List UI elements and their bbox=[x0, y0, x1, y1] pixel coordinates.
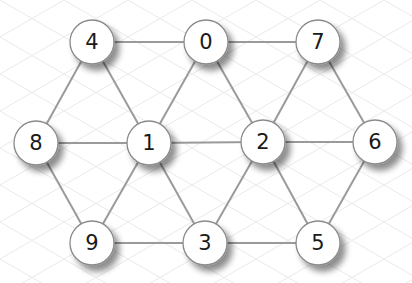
node-5: 5 bbox=[296, 221, 340, 265]
node-2: 2 bbox=[241, 120, 285, 164]
node-9: 9 bbox=[70, 221, 114, 265]
node-0: 0 bbox=[184, 20, 228, 64]
node-label: 2 bbox=[256, 130, 269, 154]
node-6: 6 bbox=[353, 120, 397, 164]
node-7: 7 bbox=[296, 20, 340, 64]
node-8: 8 bbox=[14, 121, 58, 165]
graph-diagram: 0123456789 bbox=[0, 0, 412, 283]
node-label: 6 bbox=[368, 130, 381, 154]
node-label: 5 bbox=[311, 231, 324, 255]
node-label: 9 bbox=[85, 231, 98, 255]
node-1: 1 bbox=[127, 121, 171, 165]
node-label: 8 bbox=[29, 131, 42, 155]
node-label: 1 bbox=[142, 131, 155, 155]
node-label: 0 bbox=[199, 30, 212, 54]
node-label: 7 bbox=[311, 30, 324, 54]
node-3: 3 bbox=[183, 221, 227, 265]
node-4: 4 bbox=[70, 20, 114, 64]
node-label: 4 bbox=[85, 30, 98, 54]
node-label: 3 bbox=[198, 231, 211, 255]
graph-canvas: 0123456789 bbox=[0, 0, 412, 283]
